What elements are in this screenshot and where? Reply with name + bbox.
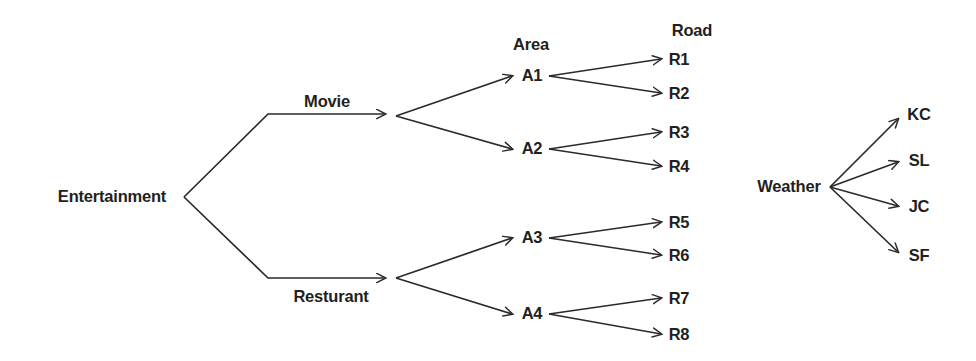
node-r5: R5 [669, 214, 690, 231]
node-jc: JC [909, 198, 930, 215]
edge-a2-to-r4 [549, 149, 661, 166]
edge-a2-to-r3 [549, 132, 661, 149]
edge-label-resturant: Resturant [293, 288, 368, 305]
node-a1: A1 [522, 67, 543, 84]
node-entertainment: Entertainment [58, 188, 166, 205]
node-r4: R4 [669, 158, 690, 175]
edge-label-movie: Movie [304, 93, 350, 110]
node-r2: R2 [669, 85, 690, 102]
road-column-header: Road [672, 22, 712, 39]
edge-a1-to-r2 [549, 76, 661, 93]
edge-entertainment-to-resturant [184, 197, 385, 278]
node-r3: R3 [669, 124, 690, 141]
node-r6: R6 [669, 247, 690, 264]
node-a4: A4 [522, 305, 543, 322]
node-r1: R1 [669, 51, 690, 68]
diagram-edges [0, 0, 976, 361]
node-r7: R7 [669, 290, 690, 307]
tree-diagram-canvas: Area Road Entertainment Movie Resturant … [0, 0, 976, 361]
node-a3: A3 [522, 229, 543, 246]
edge-movie-to-a2 [396, 116, 512, 149]
node-kc: KC [907, 106, 930, 123]
edge-weather-to-sl [830, 162, 898, 187]
edge-a3-to-r6 [549, 238, 661, 255]
edge-resturant-to-a4 [396, 278, 512, 314]
node-sf: SF [909, 247, 930, 264]
edge-a3-to-r5 [549, 222, 661, 238]
node-weather: Weather [757, 178, 820, 195]
node-r8: R8 [669, 326, 690, 343]
edge-a4-to-r8 [549, 314, 661, 334]
node-a2: A2 [522, 140, 543, 157]
edge-a1-to-r1 [549, 59, 661, 76]
edge-weather-to-kc [830, 119, 898, 187]
node-sl: SL [909, 152, 930, 169]
edge-movie-to-a1 [396, 76, 512, 116]
edge-a4-to-r7 [549, 298, 661, 314]
edge-resturant-to-a3 [396, 238, 512, 278]
edge-entertainment-to-movie [184, 114, 385, 197]
area-column-header: Area [513, 36, 549, 53]
